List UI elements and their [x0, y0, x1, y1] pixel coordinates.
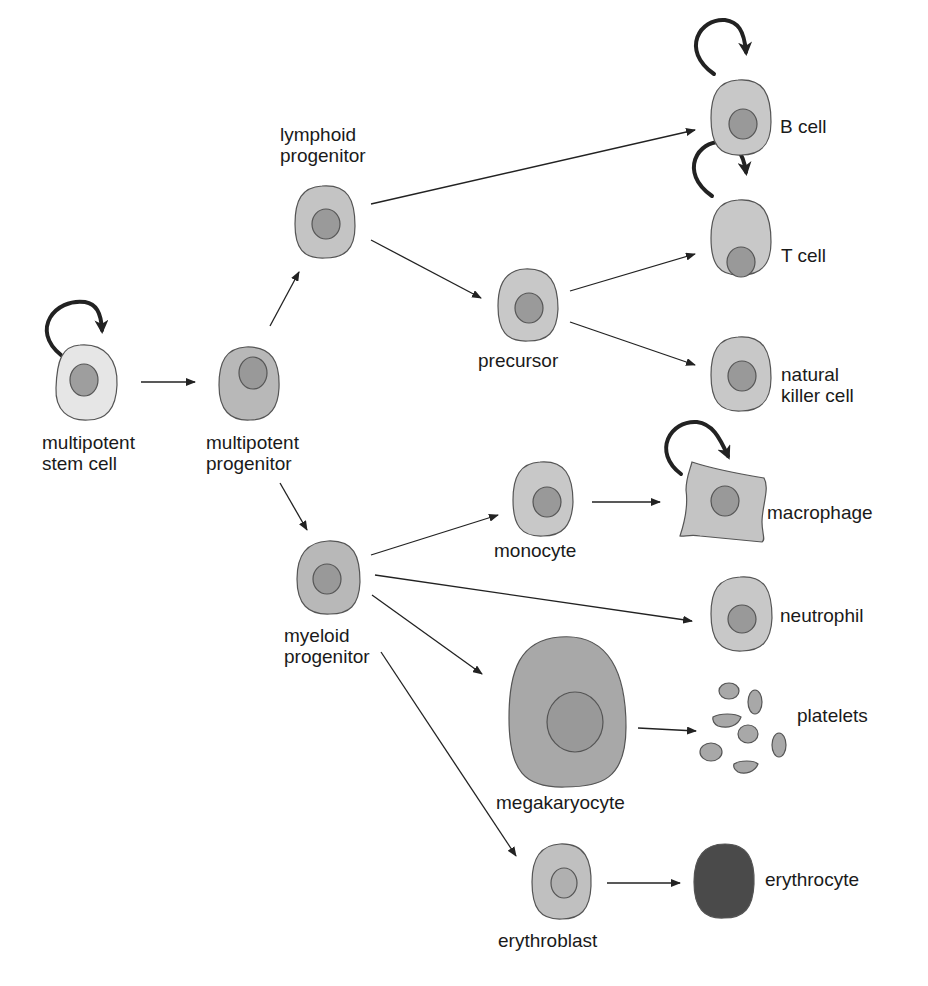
nucleus — [70, 364, 98, 396]
nucleus — [729, 109, 757, 139]
cell-natural-killer-cell — [711, 337, 771, 411]
arrow-myeloid-to-erythroblast — [381, 652, 516, 856]
nucleus — [533, 487, 561, 517]
label-macrophage: macrophage — [767, 502, 873, 523]
label-myeloid-progenitor: myeloid progenitor — [284, 625, 370, 667]
label-lymphoid-progenitor: lymphoid progenitor — [280, 124, 366, 166]
nucleus — [313, 564, 341, 594]
cell-multipotent-progenitor — [219, 347, 279, 420]
nucleus — [728, 361, 756, 391]
platelet — [719, 683, 739, 699]
cell-megakaryocyte — [509, 637, 626, 787]
cell-erythroblast — [532, 844, 591, 919]
nucleus — [515, 293, 543, 323]
nucleus — [727, 247, 755, 277]
arrow-mpp-to-myeloid — [280, 483, 307, 530]
label-erythrocyte: erythrocyte — [765, 869, 859, 890]
label-multipotent-progenitor: multipotent progenitor — [206, 432, 299, 474]
label-neutrophil: neutrophil — [780, 605, 863, 626]
label-natural-killer-cell: natural killer cell — [781, 364, 854, 406]
nucleus — [547, 692, 603, 752]
label-platelets: platelets — [797, 705, 868, 726]
arrow-mpp-to-lymphoid — [270, 272, 299, 326]
platelet — [738, 725, 758, 743]
arrow-myeloid-to-monocyte — [371, 515, 498, 555]
platelet — [734, 761, 758, 773]
arrow-precursor-to-tcell — [570, 254, 695, 291]
arrow-lymphoid-to-precursor — [371, 240, 481, 298]
label-b-cell: B cell — [780, 116, 826, 137]
nucleus — [312, 209, 340, 239]
platelet — [772, 733, 786, 757]
nucleus — [239, 357, 267, 389]
cell-lymphoid-progenitor — [295, 186, 355, 258]
label-erythroblast: erythroblast — [498, 930, 597, 951]
nucleus — [711, 486, 739, 516]
label-megakaryocyte: megakaryocyte — [496, 792, 625, 813]
arrow-megakaryocyte-to-platelets — [638, 728, 696, 731]
cell-precursor — [498, 269, 558, 341]
label-monocyte: monocyte — [494, 540, 576, 561]
cell-t-cell — [711, 200, 771, 277]
label-t-cell: T cell — [781, 245, 826, 266]
platelets-group — [700, 683, 786, 773]
platelet — [713, 714, 741, 727]
nucleus — [728, 605, 756, 633]
nucleus — [551, 868, 577, 898]
arrow-myeloid-to-neutrophil — [375, 575, 692, 621]
self-renewal-arrows — [47, 20, 746, 474]
label-multipotent-stem-cell: multipotent stem cell — [42, 432, 135, 474]
platelet — [748, 690, 762, 714]
cell-macrophage — [680, 462, 766, 542]
cell-neutrophil — [711, 577, 772, 651]
arrow-myeloid-to-megakaryocyte — [372, 595, 482, 674]
self-renewal-arrow-bcell — [696, 20, 746, 74]
cell-monocyte — [513, 462, 573, 536]
cell-b-cell — [711, 80, 771, 155]
platelet — [700, 743, 722, 761]
cell-multipotent-stem-cell — [56, 345, 117, 420]
arrow-precursor-to-nk — [570, 322, 695, 365]
label-precursor: precursor — [478, 350, 558, 371]
hematopoiesis-diagram — [0, 0, 928, 986]
arrow-lymphoid-to-bcell — [371, 130, 695, 204]
cell-erythrocyte — [694, 844, 754, 918]
cell-myeloid-progenitor — [297, 541, 360, 614]
